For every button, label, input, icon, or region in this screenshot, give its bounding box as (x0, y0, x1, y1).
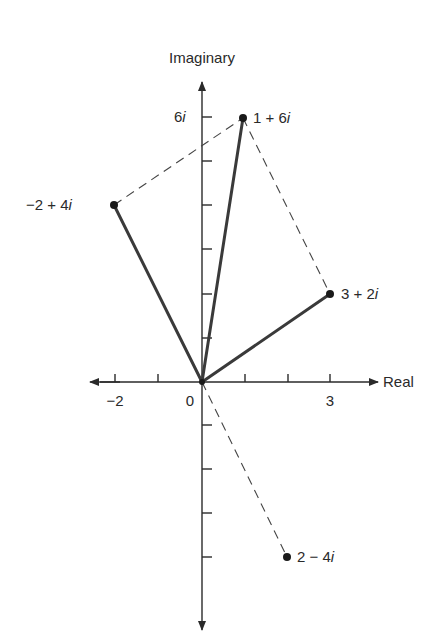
tick-label-neg2: −2 (106, 392, 123, 409)
y-axis-label: Imaginary (169, 49, 235, 66)
vector-neg2p4i (114, 205, 202, 382)
points (110, 114, 334, 561)
tick-label-6i: 6i (174, 108, 186, 125)
tick-label-0: 0 (186, 392, 194, 409)
complex-plane-diagram: Imaginary Real −2 0 3 6i 1 + 6i −2 + 4i … (0, 0, 448, 636)
dashed-origin-to-2m4i (202, 382, 287, 557)
x-axis-label: Real (383, 373, 414, 390)
dashed-1p6i-to-3p2i (243, 118, 330, 294)
label-3p2i: 3 + 2i (341, 285, 379, 302)
label-neg2p4i: −2 + 4i (26, 196, 73, 213)
vectors (114, 118, 330, 382)
vector-1p6i (202, 118, 243, 382)
label-2m4i: 2 − 4i (297, 548, 335, 565)
point-3p2i (326, 290, 334, 298)
point-1p6i (239, 114, 247, 122)
point-neg2p4i (110, 201, 118, 209)
label-1p6i: 1 + 6i (253, 109, 291, 126)
vector-3p2i (202, 294, 330, 382)
point-origin (199, 379, 205, 385)
dashed-neg2p4i-to-1p6i (114, 118, 243, 205)
dashed-lines (114, 118, 330, 557)
tick-label-3: 3 (326, 392, 334, 409)
real-axis-ticks (115, 374, 330, 382)
point-2m4i (283, 553, 291, 561)
